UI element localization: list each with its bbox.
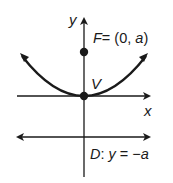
parabola-arrow-left bbox=[20, 53, 29, 62]
vertex-label: V bbox=[91, 75, 103, 92]
focus-point bbox=[80, 48, 88, 56]
y-axis-label: y bbox=[68, 11, 78, 28]
directrix-label: D: y = −a bbox=[90, 146, 149, 162]
x-axis-label: x bbox=[143, 102, 152, 119]
parabola-arrow-right bbox=[139, 53, 148, 62]
parabola-diagram: y x F= (0, a) V D: y = −a bbox=[0, 0, 173, 183]
focus-label: F= (0, a) bbox=[93, 30, 148, 46]
vertex-point bbox=[80, 92, 88, 100]
